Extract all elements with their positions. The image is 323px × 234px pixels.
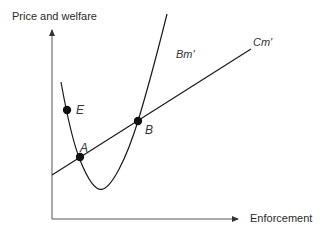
bm-prime-curve bbox=[61, 14, 167, 189]
diagram-canvas bbox=[0, 0, 323, 234]
x-axis-label: Enforcement bbox=[250, 213, 312, 224]
point-e-label: E bbox=[76, 104, 84, 116]
cm-prime-label: Cm' bbox=[253, 37, 272, 48]
economics-diagram: Price and welfare Enforcement Bm' Cm' E … bbox=[0, 0, 323, 234]
point-a-label: A bbox=[80, 142, 88, 154]
point-b-marker bbox=[134, 117, 142, 125]
point-e-marker bbox=[63, 106, 71, 114]
point-b-label: B bbox=[145, 124, 153, 136]
y-axis-label: Price and welfare bbox=[12, 11, 97, 22]
bm-prime-label: Bm' bbox=[176, 49, 195, 60]
